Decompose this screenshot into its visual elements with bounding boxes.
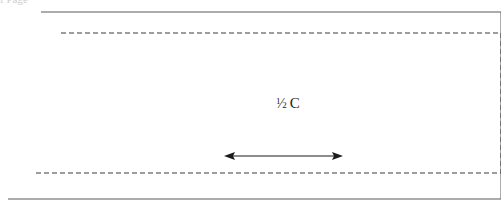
half-c-label: 1⁄2C bbox=[258, 95, 318, 112]
half-c-dimension-arrow bbox=[224, 152, 343, 160]
label-unit: C bbox=[290, 95, 300, 111]
fraction-denominator: 2 bbox=[282, 100, 287, 110]
outer-parallelogram-outline bbox=[8, 12, 501, 199]
figure-page: f Page 1⁄2C bbox=[0, 0, 501, 206]
parallelogram-figure bbox=[0, 0, 501, 206]
